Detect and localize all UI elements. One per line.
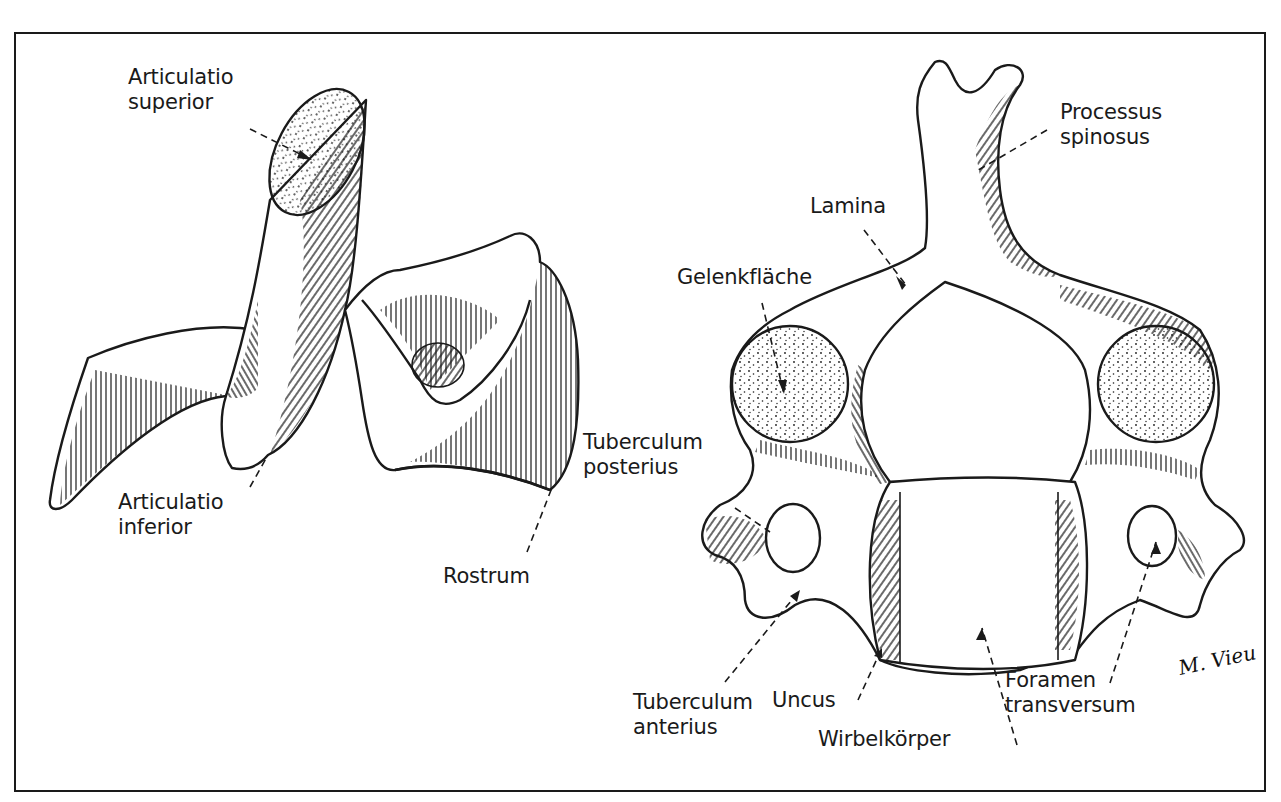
label-line: Foramen [935,668,1135,693]
label-line: Processus [1060,100,1162,125]
label-line: Articulatio [128,65,233,90]
label-articulatio-superior: Articulatio superior [128,65,233,115]
label-articulatio-inferior: Articulatio inferior [118,490,223,540]
label-lamina: Lamina [810,194,886,219]
label-line: Articulatio [118,490,223,515]
label-uncus: Uncus [772,688,835,713]
label-wirbelkoerper: Wirbelkörper [818,727,950,752]
label-foramen-transversum: Foramen transversum [935,668,1135,718]
label-gelenkflaeche: Gelenkfläche [677,265,812,290]
label-tuberculum-anterius: Tuberculum anterius [633,690,753,740]
label-processus-spinosus: Processus spinosus [1060,100,1162,150]
label-line: Tuberculum [633,690,753,715]
label-line: Tuberculum [583,430,703,455]
label-line: superior [128,90,233,115]
cranial-view [702,61,1244,674]
label-tuberculum-posterius: Tuberculum posterius [583,430,703,480]
label-line: transversum [935,693,1135,718]
label-line: anterius [633,715,753,740]
label-rostrum: Rostrum [443,564,530,589]
lateral-view [50,73,579,509]
label-line: spinosus [1060,125,1162,150]
label-line: posterius [583,455,703,480]
label-line: inferior [118,515,223,540]
